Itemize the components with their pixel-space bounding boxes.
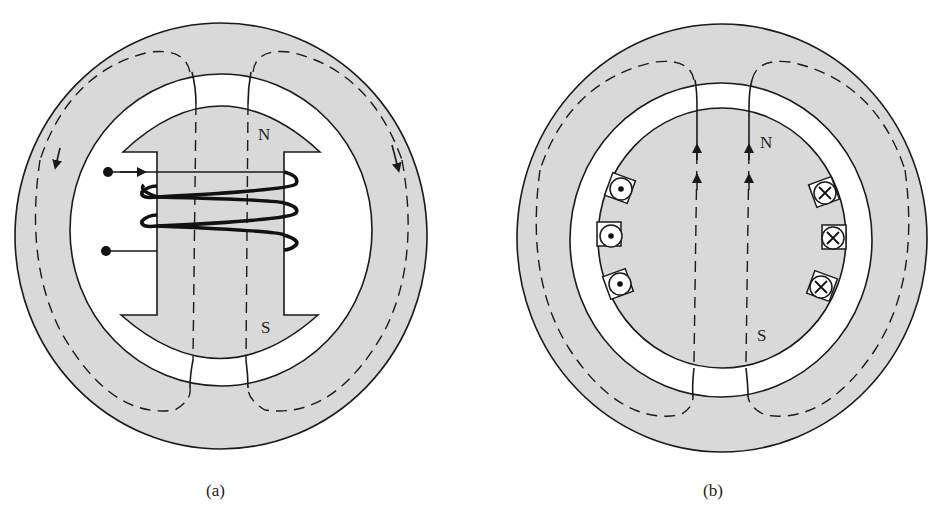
pole-label-north-b: N bbox=[760, 133, 772, 152]
slot-conductor-cross bbox=[822, 225, 846, 249]
caption-a: (a) bbox=[206, 481, 225, 500]
pole-label-south-a: S bbox=[261, 318, 270, 337]
panel-a: N S (a) bbox=[15, 23, 427, 500]
dot-icon bbox=[618, 186, 624, 192]
dot-icon bbox=[617, 281, 623, 287]
slot-conductor-dot bbox=[597, 222, 622, 247]
caption-b: (b) bbox=[703, 481, 723, 500]
panel-b: N S (b) bbox=[517, 24, 927, 500]
pole-label-north-a: N bbox=[258, 125, 270, 144]
round-rotor bbox=[598, 108, 846, 368]
figure-canvas: N S (a) bbox=[0, 0, 940, 517]
pole-label-south-b: S bbox=[757, 326, 766, 345]
dot-icon bbox=[608, 233, 614, 239]
